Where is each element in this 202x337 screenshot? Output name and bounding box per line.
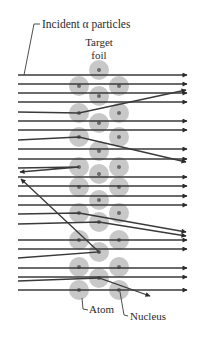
- nucleus-label-group: Nucleus: [120, 292, 166, 322]
- nucleus: [97, 94, 101, 98]
- rutherford-scattering-diagram: Incident α particles Target foil Atom Nu…: [0, 0, 202, 337]
- nucleus: [117, 211, 121, 215]
- target-label-line2: foil: [91, 49, 106, 61]
- nucleus: [97, 172, 101, 176]
- nucleus-label: Nucleus: [130, 310, 166, 322]
- atom-leader-line: [82, 298, 88, 310]
- target-foil-atoms: [69, 60, 129, 300]
- atom-label: Atom: [89, 303, 115, 315]
- nucleus: [117, 111, 121, 115]
- nucleus: [97, 68, 101, 72]
- nucleus: [97, 198, 101, 202]
- alpha-particle-trajectories: [18, 75, 187, 296]
- atom-label-group: Atom: [82, 298, 115, 315]
- incident-particles-label: Incident α particles: [42, 18, 131, 31]
- target-label-line1: Target: [85, 36, 113, 48]
- incident-label-group: Incident α particles: [24, 18, 131, 75]
- nucleus: [117, 135, 121, 139]
- incident-leader-line: [24, 24, 40, 75]
- nucleus: [117, 165, 121, 169]
